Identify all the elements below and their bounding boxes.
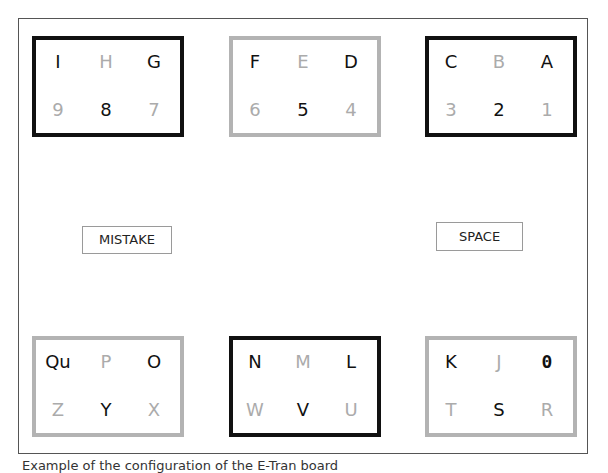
cell-J[interactable]: J — [479, 352, 519, 372]
cell-9[interactable]: 9 — [38, 100, 78, 120]
cell-5[interactable]: 5 — [283, 100, 323, 120]
cell-0[interactable]: 0 — [527, 352, 567, 372]
cell-3[interactable]: 3 — [431, 100, 471, 120]
box-cba[interactable]: C B A 3 2 1 — [425, 36, 577, 137]
cell-7[interactable]: 7 — [134, 100, 174, 120]
cell-D[interactable]: D — [331, 52, 371, 72]
mistake-button[interactable]: MISTAKE — [82, 226, 172, 254]
cell-C[interactable]: C — [431, 52, 471, 72]
cell-X[interactable]: X — [134, 400, 174, 420]
cell-1[interactable]: 1 — [527, 100, 567, 120]
cell-K[interactable]: K — [431, 352, 471, 372]
cell-A[interactable]: A — [527, 52, 567, 72]
space-button[interactable]: SPACE — [436, 222, 523, 251]
cell-T[interactable]: T — [431, 400, 471, 420]
cell-N[interactable]: N — [235, 352, 275, 372]
box-kj0[interactable]: K J 0 T S R — [425, 336, 577, 437]
cell-2[interactable]: 2 — [479, 100, 519, 120]
cell-H[interactable]: H — [86, 52, 126, 72]
box-nml[interactable]: N M L W V U — [229, 336, 381, 437]
cell-Qu[interactable]: Qu — [38, 352, 78, 372]
cell-Z[interactable]: Z — [38, 400, 78, 420]
box-ihg[interactable]: I H G 9 8 7 — [32, 36, 184, 137]
cell-I[interactable]: I — [38, 52, 78, 72]
cell-8[interactable]: 8 — [86, 100, 126, 120]
cell-Y[interactable]: Y — [86, 400, 126, 420]
cell-O[interactable]: O — [134, 352, 174, 372]
cell-S[interactable]: S — [479, 400, 519, 420]
cell-6[interactable]: 6 — [235, 100, 275, 120]
cell-F[interactable]: F — [235, 52, 275, 72]
cell-P[interactable]: P — [86, 352, 126, 372]
box-qupo[interactable]: Qu P O Z Y X — [32, 336, 184, 437]
cell-G[interactable]: G — [134, 52, 174, 72]
cell-M[interactable]: M — [283, 352, 323, 372]
cell-R[interactable]: R — [527, 400, 567, 420]
cell-E[interactable]: E — [283, 52, 323, 72]
cell-W[interactable]: W — [235, 400, 275, 420]
cell-B[interactable]: B — [479, 52, 519, 72]
cell-V[interactable]: V — [283, 400, 323, 420]
box-fed[interactable]: F E D 6 5 4 — [229, 36, 381, 137]
cell-L[interactable]: L — [331, 352, 371, 372]
cell-4[interactable]: 4 — [331, 100, 371, 120]
cell-U[interactable]: U — [331, 400, 371, 420]
figure-caption: Example of the configuration of the E-Tr… — [22, 458, 338, 473]
